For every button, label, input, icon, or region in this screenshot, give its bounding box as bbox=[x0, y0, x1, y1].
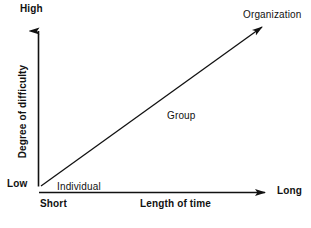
chart-canvas bbox=[0, 0, 311, 228]
data-label-organization: Organization bbox=[243, 9, 302, 20]
data-label-group: Group bbox=[167, 110, 196, 121]
data-label-individual: Individual bbox=[57, 181, 101, 192]
y-axis-high-label: High bbox=[20, 3, 43, 14]
x-axis-title: Length of time bbox=[140, 198, 211, 209]
trend-line bbox=[41, 27, 262, 186]
y-axis-low-label: Low bbox=[7, 178, 27, 189]
difficulty-vs-time-chart: Degree of difficulty High Low Short Long… bbox=[0, 0, 311, 228]
x-axis-start-label: Short bbox=[40, 198, 67, 209]
x-axis-end-label: Long bbox=[277, 185, 302, 196]
y-axis-title: Degree of difficulty bbox=[17, 52, 28, 172]
